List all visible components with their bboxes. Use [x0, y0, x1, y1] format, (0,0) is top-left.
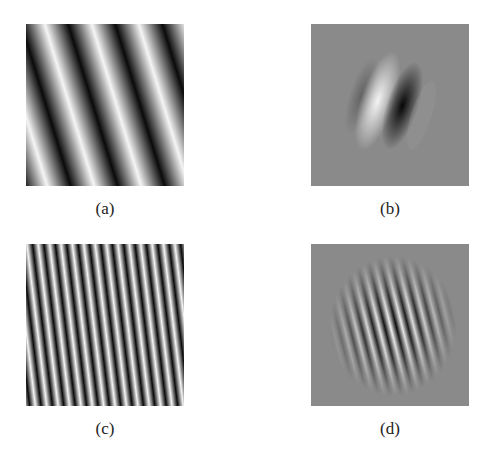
caption-b: (b) [311, 199, 469, 219]
panel-b-low-frequency-gabor [311, 24, 469, 186]
caption-d: (d) [311, 419, 469, 439]
gabor-image [311, 244, 469, 406]
panel-c-high-frequency-grating [26, 244, 184, 406]
gabor-image [311, 24, 469, 186]
panel-d-high-frequency-gabor [311, 244, 469, 406]
caption-a: (a) [26, 199, 184, 219]
caption-c: (c) [26, 419, 184, 439]
grating-image [26, 244, 184, 406]
panel-a-low-frequency-grating [26, 24, 184, 186]
grating-image [26, 24, 184, 186]
